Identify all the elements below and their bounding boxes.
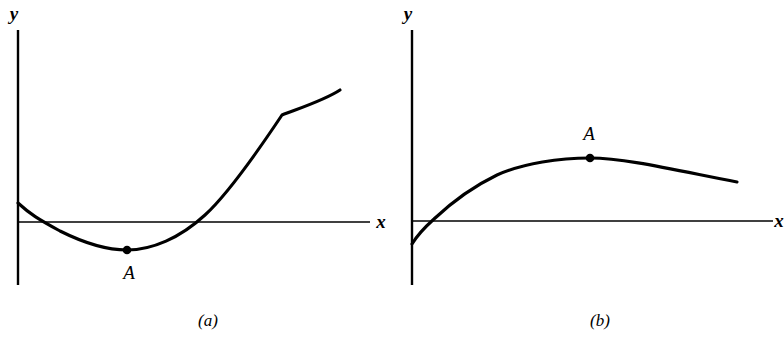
x-axis-label: x <box>773 210 784 231</box>
extremum-point-label: A <box>121 262 135 283</box>
extremum-point-marker <box>123 246 132 255</box>
y-axis-label: y <box>8 3 19 24</box>
panel-a: y x A (a) <box>0 0 392 345</box>
curve-maximum <box>412 158 737 244</box>
curve-minimum <box>18 90 340 250</box>
panel-caption: (b) <box>590 311 610 330</box>
panel-b-plot: y x A (b) <box>392 0 784 345</box>
figure-root: y x A (a) y x A (b) <box>0 0 784 345</box>
panel-caption: (a) <box>198 311 218 330</box>
extremum-point-marker <box>586 154 595 163</box>
extremum-point-label: A <box>581 123 595 144</box>
y-axis-label: y <box>402 3 413 24</box>
panel-a-plot: y x A (a) <box>0 0 392 345</box>
panel-b: y x A (b) <box>392 0 784 345</box>
x-axis-label: x <box>375 211 386 232</box>
